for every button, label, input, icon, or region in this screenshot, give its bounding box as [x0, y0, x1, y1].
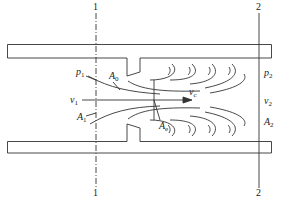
eddy-tick: [228, 67, 230, 75]
section-2-label-bottom: 2: [256, 188, 261, 198]
eddy-tick: [208, 125, 210, 133]
streamline: [88, 76, 160, 94]
label-p1: p1: [76, 67, 85, 79]
label-p2: p2: [264, 68, 273, 80]
label-A1: A1: [77, 112, 87, 124]
leader-p1: [86, 76, 96, 80]
eddy-tick: [208, 67, 210, 75]
eddy-tick: [168, 125, 170, 133]
label-A2: A2: [264, 117, 274, 129]
label-Ae: Ae: [159, 121, 168, 133]
orifice-flow-diagram: [0, 0, 282, 199]
eddy: [210, 74, 245, 93]
label-A0: A0: [109, 71, 119, 83]
pipe-bottom-wall: [8, 124, 272, 153]
eddy-tick: [228, 125, 230, 133]
section-2-label-top: 2: [256, 2, 261, 12]
section-1-label-top: 1: [93, 2, 98, 12]
label-v2: v2: [264, 96, 272, 108]
section-1-label-bottom: 1: [93, 188, 98, 198]
eddy-tick: [188, 67, 190, 75]
leader-A1: [86, 113, 96, 116]
streamline: [128, 108, 200, 119]
streamline: [90, 106, 160, 124]
label-vc: vc: [189, 87, 197, 99]
label-v1: v1: [70, 95, 78, 107]
eddy: [150, 64, 175, 80]
leader-A0: [113, 82, 120, 90]
eddy: [210, 107, 245, 126]
eddy-tick: [168, 67, 170, 75]
pipe-top-wall: [8, 45, 272, 77]
eddy-tick: [188, 125, 190, 133]
